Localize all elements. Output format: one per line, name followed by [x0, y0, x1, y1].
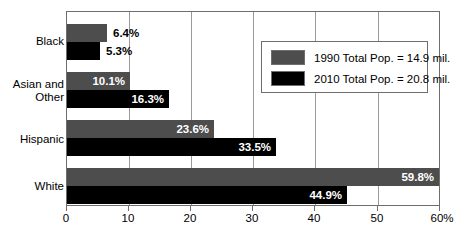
chart-legend: 1990 Total Pop. = 14.9 mil. 2010 Total P…: [261, 41, 428, 93]
x-axis: 0 10 20 30 40 50 60%: [66, 206, 440, 230]
category-label-hispanic-text: Hispanic: [20, 133, 64, 145]
bar-white-1990: 59.8%: [67, 168, 439, 186]
bar-hispanic-1990: 23.6%: [67, 120, 214, 138]
bar-value-white-2010: 44.9%: [309, 189, 342, 201]
category-label-white-text: White: [35, 180, 64, 192]
category-label-asian-and-other: Asian and Other: [0, 78, 64, 103]
xtick-label-50: 50: [371, 212, 384, 224]
category-label-asian-line1: Asian and: [13, 78, 64, 90]
xtick-mark-10: [128, 206, 129, 211]
xtick-label-30: 30: [246, 212, 259, 224]
xtick-mark-50: [377, 206, 378, 211]
bar-value-white-1990: 59.8%: [401, 171, 434, 183]
xtick-label-60: 60%: [430, 212, 453, 224]
category-label-hispanic: Hispanic: [0, 133, 64, 146]
legend-label-1990: 1990 Total Pop. = 14.9 mil.: [314, 52, 450, 64]
xtick-label-10: 10: [122, 212, 135, 224]
bar-value-asian-2010: 16.3%: [131, 93, 164, 105]
xtick-label-0: 0: [63, 212, 69, 224]
xtick-mark-60: [439, 206, 440, 211]
bar-black-2010: 5.3%: [67, 42, 100, 60]
legend-swatch-2010-icon: [271, 71, 305, 86]
category-label-black: Black: [0, 35, 64, 48]
bar-black-1990: 6.4%: [67, 24, 107, 42]
xtick-label-20: 20: [184, 212, 197, 224]
xtick-mark-40: [314, 206, 315, 211]
xtick-mark-30: [252, 206, 253, 211]
bar-value-hispanic-2010: 33.5%: [238, 141, 271, 153]
legend-item-2010: 2010 Total Pop. = 20.8 mil.: [271, 68, 427, 89]
bar-value-black-1990: 6.4%: [113, 27, 139, 39]
bar-value-black-2010: 5.3%: [106, 45, 132, 57]
category-label-white: White: [0, 180, 64, 193]
xtick-mark-20: [190, 206, 191, 211]
bar-value-asian-1990: 10.1%: [92, 75, 125, 87]
xtick-label-40: 40: [308, 212, 321, 224]
bar-chart: Black Asian and Other Hispanic White 6.4…: [0, 0, 461, 243]
xtick-mark-0: [66, 206, 67, 211]
category-label-asian-line2: Other: [35, 91, 64, 103]
category-label-black-text: Black: [36, 35, 64, 47]
legend-label-2010: 2010 Total Pop. = 20.8 mil.: [314, 73, 450, 85]
bar-asian-1990: 10.1%: [67, 72, 130, 90]
legend-swatch-1990-icon: [271, 50, 305, 65]
legend-item-1990: 1990 Total Pop. = 14.9 mil.: [271, 47, 427, 68]
bar-value-hispanic-1990: 23.6%: [176, 123, 209, 135]
bar-hispanic-2010: 33.5%: [67, 138, 276, 156]
bar-asian-2010: 16.3%: [67, 90, 169, 108]
bar-white-2010: 44.9%: [67, 186, 347, 204]
